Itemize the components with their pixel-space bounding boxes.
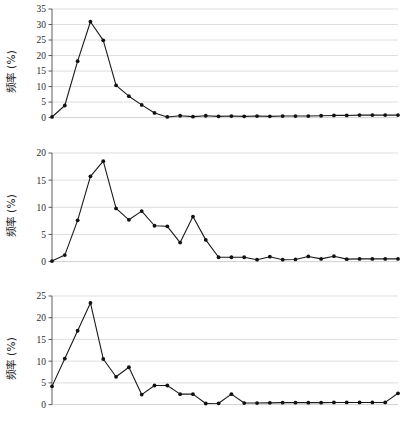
y-tick-label: 5 [41, 97, 46, 107]
data-point-marker [191, 392, 195, 396]
data-point-marker [242, 255, 246, 259]
data-point-marker [345, 114, 349, 118]
data-point-marker [332, 114, 336, 118]
y-tick-label: 10 [37, 202, 47, 212]
y-axis-title-panel-2: 频率 (%) [0, 144, 22, 288]
data-point-marker [140, 103, 144, 107]
data-point-marker [268, 114, 272, 118]
y-tick-label: 10 [37, 82, 47, 92]
data-point-marker [89, 174, 93, 178]
data-point-marker [217, 402, 221, 406]
y-tick-label: 25 [37, 35, 47, 45]
data-point-marker [255, 114, 259, 118]
data-point-marker [242, 401, 246, 405]
data-point-marker [345, 401, 349, 405]
data-point-marker [140, 393, 144, 397]
y-axis-title-panel-1: 频率 (%) [0, 0, 22, 144]
data-point-marker [217, 255, 221, 259]
data-point-marker [178, 392, 182, 396]
data-point-marker [370, 113, 374, 117]
y-tick-label: 20 [37, 313, 47, 323]
data-point-marker [165, 384, 169, 388]
data-point-marker [76, 329, 80, 333]
data-point-marker [383, 257, 387, 261]
data-point-marker [101, 357, 105, 361]
data-point-marker [76, 218, 80, 222]
data-point-marker [294, 401, 298, 405]
data-point-marker [242, 114, 246, 118]
data-point-marker [153, 384, 157, 388]
data-point-marker [383, 113, 387, 117]
data-point-marker [63, 104, 67, 108]
y-tick-label: 5 [41, 229, 46, 239]
data-point-marker [332, 401, 336, 405]
data-point-marker [50, 385, 54, 389]
data-point-marker [50, 115, 54, 119]
data-point-marker [230, 255, 234, 259]
chart-panel-1: 频率 (%) 05101520253035 [0, 0, 402, 144]
data-point-marker [383, 401, 387, 405]
data-point-marker [204, 238, 208, 242]
data-point-marker [319, 114, 323, 118]
data-point-marker [294, 257, 298, 261]
data-point-marker [306, 254, 310, 258]
y-tick-label: 15 [37, 335, 47, 345]
y-axis-label-text: 频率 (%) [4, 194, 19, 237]
data-point-marker [396, 113, 400, 117]
data-point-marker [230, 392, 234, 396]
data-point-marker [358, 113, 362, 117]
y-axis-title-panel-3: 频率 (%) [0, 287, 22, 431]
data-point-marker [396, 257, 400, 261]
data-point-marker [396, 392, 400, 396]
data-point-marker [370, 257, 374, 261]
data-point-marker [140, 209, 144, 213]
plot-area-panel-1: 05101520253035 [22, 0, 402, 144]
plot-area-panel-3: 0510152025 [22, 287, 402, 431]
data-point-marker [101, 38, 105, 42]
data-point-marker [319, 401, 323, 405]
y-axis-label-text: 频率 (%) [4, 50, 19, 93]
data-point-marker [255, 257, 259, 261]
data-point-marker [255, 401, 259, 405]
data-point-marker [127, 366, 131, 370]
chart-panel-2: 频率 (%) 05101520 [0, 144, 402, 288]
y-tick-label: 15 [37, 66, 47, 76]
series-line-panel-1 [52, 22, 398, 117]
data-point-marker [268, 401, 272, 405]
data-point-marker [89, 20, 93, 24]
data-point-marker [153, 223, 157, 227]
data-point-marker [319, 257, 323, 261]
y-tick-label: 20 [37, 51, 47, 61]
data-point-marker [281, 257, 285, 261]
data-point-marker [114, 206, 118, 210]
data-point-marker [127, 94, 131, 98]
multi-panel-line-chart-figure: 频率 (%) 05101520253035 频率 (%) 05101520 频率… [0, 0, 402, 431]
data-point-marker [165, 224, 169, 228]
y-tick-label: 5 [41, 378, 46, 388]
data-point-marker [63, 253, 67, 257]
data-point-marker [63, 357, 67, 361]
y-tick-label: 30 [37, 20, 47, 30]
line-plot-panel-1: 05101520253035 [22, 0, 402, 144]
line-plot-panel-2: 05101520 [22, 144, 402, 288]
y-tick-label: 0 [41, 257, 46, 267]
chart-panel-3: 频率 (%) 0510152025 [0, 287, 402, 431]
data-point-marker [50, 259, 54, 263]
data-point-marker [358, 401, 362, 405]
data-point-marker [191, 214, 195, 218]
y-tick-label: 25 [37, 292, 47, 302]
data-point-marker [370, 401, 374, 405]
data-point-marker [204, 114, 208, 118]
data-point-marker [294, 114, 298, 118]
data-point-marker [230, 114, 234, 118]
data-point-marker [101, 159, 105, 163]
data-point-marker [306, 114, 310, 118]
data-point-marker [114, 375, 118, 379]
data-point-marker [217, 114, 221, 118]
plot-area-panel-2: 05101520 [22, 144, 402, 288]
data-point-marker [191, 115, 195, 119]
data-point-marker [306, 401, 310, 405]
data-point-marker [204, 402, 208, 406]
line-plot-panel-3: 0510152025 [22, 287, 402, 431]
data-point-marker [281, 114, 285, 118]
